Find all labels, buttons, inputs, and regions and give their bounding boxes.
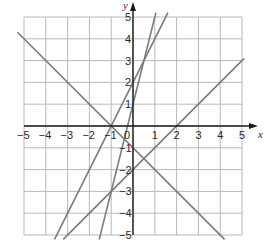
y-tick-label: 4 xyxy=(125,33,131,45)
y-tick-label: 5 xyxy=(125,11,131,23)
x-tick-label: −3 xyxy=(61,129,74,141)
y-axis-label: y xyxy=(122,0,128,11)
x-tick-label: 0 xyxy=(124,129,130,141)
x-axis-label: x xyxy=(257,128,263,140)
y-tick-label: 2 xyxy=(125,76,131,88)
x-axis-arrow-icon xyxy=(249,123,258,129)
y-axis-arrow-icon xyxy=(130,2,136,11)
plot-line xyxy=(63,58,244,239)
y-tick-label: −1 xyxy=(119,142,132,154)
x-tick-label: 3 xyxy=(195,129,201,141)
line-graph: xy −5−4−3−2−1012345−5−4−3−2−112345 xyxy=(0,0,269,251)
x-tick-label: 4 xyxy=(217,129,223,141)
y-tick-label: −4 xyxy=(119,207,132,219)
x-tick-label: −4 xyxy=(39,129,52,141)
x-tick-label: −1 xyxy=(104,129,117,141)
y-tick-label: −3 xyxy=(119,185,132,197)
axes: xy xyxy=(24,0,263,235)
x-tick-label: 5 xyxy=(239,129,245,141)
y-tick-label: 3 xyxy=(125,55,131,67)
x-tick-label: −5 xyxy=(17,129,30,141)
y-tick-label: 1 xyxy=(125,98,131,110)
x-tick-label: 2 xyxy=(174,129,180,141)
x-tick-label: −2 xyxy=(82,129,95,141)
y-tick-label: −5 xyxy=(119,229,132,241)
y-tick-label: −2 xyxy=(119,164,132,176)
x-tick-label: 1 xyxy=(152,129,158,141)
